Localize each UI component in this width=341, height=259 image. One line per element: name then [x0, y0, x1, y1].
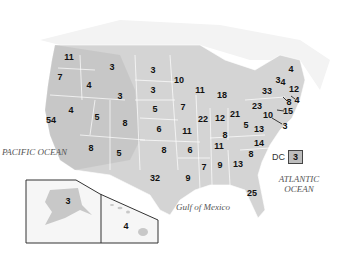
state-value-az: 8: [88, 144, 93, 153]
state-value-or: 7: [57, 73, 62, 82]
state-value-ne: 5: [152, 105, 157, 114]
state-value-mi: 18: [217, 91, 227, 100]
state-value-ms: 7: [201, 163, 206, 172]
dc-value: 3: [288, 150, 303, 164]
state-value-mn: 10: [174, 76, 184, 85]
state-value-ky: 8: [222, 131, 227, 140]
state-value-id: 4: [86, 81, 91, 90]
state-value-in: 12: [215, 114, 225, 123]
state-value-de: 3: [282, 122, 287, 131]
dc-label: DC 3: [272, 150, 303, 164]
state-value-ak: 3: [65, 197, 70, 206]
state-value-sd: 3: [150, 86, 155, 95]
state-value-ma: 12: [289, 85, 299, 94]
state-value-fl: 25: [247, 189, 257, 198]
state-value-ia: 7: [180, 103, 185, 112]
state-value-ok: 8: [161, 146, 166, 155]
state-value-md: 10: [263, 111, 273, 120]
state-value-pa: 23: [252, 102, 262, 111]
inset-box: [26, 180, 158, 243]
state-value-nc: 14: [254, 139, 264, 148]
state-value-nd: 3: [150, 66, 155, 75]
atlantic-ocean-label: ATLANTIC OCEAN: [270, 175, 328, 195]
state-value-oh: 21: [230, 110, 240, 119]
state-value-ar: 6: [187, 146, 192, 155]
gulf-of-mexico-label: Gulf of Mexico: [176, 203, 230, 213]
state-value-ri: 4: [294, 96, 299, 105]
state-value-al: 9: [217, 161, 222, 170]
state-value-wv: 5: [243, 121, 248, 130]
state-value-mo: 11: [182, 127, 192, 136]
state-value-hi: 4: [123, 222, 128, 231]
state-value-il: 22: [198, 115, 208, 124]
state-value-ut: 5: [94, 113, 99, 122]
pacific-ocean-label: PACIFIC OCEAN: [2, 148, 67, 158]
state-value-co: 8: [122, 119, 127, 128]
state-value-ny: 33: [262, 87, 272, 96]
state-value-nh: 4: [280, 78, 285, 87]
state-value-la: 9: [185, 174, 190, 183]
state-value-me: 4: [288, 65, 293, 74]
state-value-nv: 4: [68, 106, 73, 115]
state-value-ks: 6: [156, 125, 161, 134]
state-value-nj: 15: [283, 107, 293, 116]
state-value-ca: 54: [46, 116, 56, 125]
state-value-wa: 11: [64, 53, 74, 62]
dc-name: DC: [272, 152, 285, 162]
state-value-ga: 13: [233, 160, 243, 169]
state-value-tx: 32: [150, 174, 160, 183]
state-value-sc: 8: [248, 150, 253, 159]
state-value-va: 13: [254, 125, 264, 134]
state-value-mt: 3: [109, 63, 114, 72]
us-map: [0, 0, 341, 259]
state-value-wy: 3: [117, 92, 122, 101]
state-value-wi: 11: [195, 86, 205, 95]
state-value-nm: 5: [116, 149, 121, 158]
state-value-tn: 11: [214, 142, 224, 151]
